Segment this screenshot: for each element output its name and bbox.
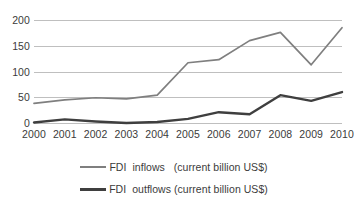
x-tick-label: 2005 xyxy=(176,129,200,140)
gridline xyxy=(34,123,342,124)
x-tick-label: 2007 xyxy=(238,129,262,140)
legend-line-icon xyxy=(80,166,106,168)
y-tick-label: 150 xyxy=(12,41,30,52)
plot-wrapper: 050100150200 200020012002200320042005200… xyxy=(0,0,348,150)
series-line-inflows xyxy=(34,28,342,104)
x-tick-label: 2004 xyxy=(145,129,169,140)
x-tick-label: 2006 xyxy=(207,129,231,140)
x-tick-label: 2002 xyxy=(84,129,108,140)
y-tick-label: 200 xyxy=(12,15,30,26)
x-tick-label: 2008 xyxy=(269,129,293,140)
y-tick-label: 0 xyxy=(24,118,30,129)
x-tick-label: 2001 xyxy=(53,129,77,140)
x-tick-label: 2000 xyxy=(22,129,46,140)
x-axis: 2000200120022003200420052006200720082009… xyxy=(34,129,342,147)
y-tick-label: 50 xyxy=(18,92,30,103)
x-tick-label: 2009 xyxy=(299,129,323,140)
legend-label: FDI outflows (current billion US$) xyxy=(109,184,268,195)
plot-area xyxy=(34,20,342,123)
x-tick-label: 2003 xyxy=(115,129,139,140)
x-tick-label: 2010 xyxy=(330,129,354,140)
series-line-outflows xyxy=(34,92,342,123)
y-tick-label: 100 xyxy=(12,66,30,77)
legend-item[interactable]: FDI outflows (current billion US$) xyxy=(0,178,348,200)
legend-label: FDI inflows (current billion US$) xyxy=(109,162,267,173)
series-layer xyxy=(34,20,342,123)
legend-line-icon xyxy=(80,188,106,191)
legend-item[interactable]: FDI inflows (current billion US$) xyxy=(0,156,348,178)
chart-legend: FDI inflows (current billion US$)FDI out… xyxy=(0,156,348,206)
